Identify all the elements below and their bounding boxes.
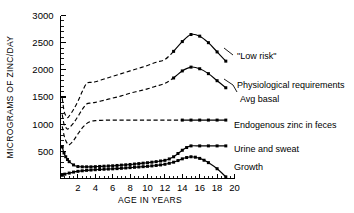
data-point <box>181 149 184 152</box>
y-axis-tick-labels: 50010001500200025003000 <box>32 10 53 157</box>
data-point <box>76 170 79 173</box>
data-point <box>142 162 145 165</box>
x-tick-label: 18 <box>212 182 223 193</box>
axes-group <box>61 16 235 179</box>
data-point <box>155 160 158 163</box>
data-point <box>120 167 123 170</box>
data-point <box>133 163 136 166</box>
series-label-low-risk: "Low risk" <box>237 51 276 61</box>
data-point <box>181 119 184 122</box>
data-point <box>194 156 197 159</box>
x-tick-label: 12 <box>160 182 171 193</box>
data-point <box>129 166 132 169</box>
data-point <box>129 163 132 166</box>
x-axis-title: AGE IN YEARS <box>118 195 182 205</box>
data-point <box>190 155 193 158</box>
data-point <box>207 119 210 122</box>
x-axis-tick-labels: 2468101214161820 <box>75 182 240 193</box>
data-point <box>137 165 140 168</box>
series-label-growth: Growth <box>234 162 263 172</box>
data-point <box>116 164 119 167</box>
series-line-dashed <box>62 51 173 117</box>
y-tick-label: 2000 <box>32 64 53 75</box>
x-tick-label: 20 <box>229 182 240 193</box>
x-tick-label: 16 <box>194 182 205 193</box>
data-point <box>150 164 153 167</box>
series-label-avg-basal: Avg basal <box>240 94 279 104</box>
data-point <box>163 163 166 166</box>
data-point <box>224 60 227 63</box>
data-point <box>181 69 184 72</box>
data-point <box>198 157 201 160</box>
series-endogenous-zinc-in-feces <box>62 119 227 145</box>
data-point <box>63 173 66 176</box>
data-point <box>190 66 193 69</box>
data-point <box>172 50 175 53</box>
data-point <box>111 167 114 170</box>
series-label-endogenous-zinc: Endogenous zinc in feces <box>234 120 337 130</box>
y-tick-label: 2500 <box>32 37 53 48</box>
data-point <box>76 165 79 168</box>
data-point <box>103 165 106 168</box>
series-layer <box>61 33 228 178</box>
data-point <box>216 144 219 147</box>
data-point <box>224 86 227 89</box>
data-point <box>107 168 110 171</box>
data-point <box>85 169 88 172</box>
data-point <box>146 165 149 168</box>
x-axis-ticks <box>61 174 235 179</box>
leader-low-risk <box>224 48 233 55</box>
series-label-urine-and-sweat: Urine and sweat <box>234 144 300 154</box>
data-point <box>172 155 175 158</box>
data-point <box>216 79 219 82</box>
data-point <box>159 163 162 166</box>
data-point <box>85 165 88 168</box>
data-point <box>207 161 210 164</box>
series-annotations: "Low risk" Physiological requirements Av… <box>234 51 345 172</box>
data-point <box>89 169 92 172</box>
data-point <box>142 165 145 168</box>
data-point <box>72 171 75 174</box>
data-point <box>216 167 219 170</box>
series-low-risk <box>62 33 227 118</box>
y-tick-label: 1000 <box>32 119 53 130</box>
data-point <box>172 161 175 164</box>
data-point <box>116 167 119 170</box>
data-point <box>72 163 75 166</box>
x-tick-label: 14 <box>177 182 188 193</box>
data-point <box>168 157 171 160</box>
data-point <box>198 119 201 122</box>
data-point <box>181 157 184 160</box>
series-line-dashed <box>62 120 182 145</box>
x-tick-label: 2 <box>75 182 80 193</box>
data-point <box>98 165 101 168</box>
data-point <box>176 159 179 162</box>
data-point <box>198 144 201 147</box>
data-point <box>61 145 64 148</box>
data-point <box>111 164 114 167</box>
y-tick-label: 1500 <box>32 91 53 102</box>
zinc-requirements-chart: 50010001500200025003000 2468101214161820… <box>0 0 354 213</box>
data-point <box>203 159 206 162</box>
data-point <box>124 163 127 166</box>
data-point <box>176 152 179 155</box>
data-point <box>107 165 110 168</box>
x-tick-label: 8 <box>127 182 132 193</box>
data-point <box>61 174 64 177</box>
data-point <box>207 72 210 75</box>
data-point <box>207 144 210 147</box>
data-point <box>190 119 193 122</box>
data-point <box>216 50 219 53</box>
series-urine-and-sweat <box>61 144 228 168</box>
x-tick-label: 10 <box>142 182 153 193</box>
data-point <box>207 41 210 44</box>
data-point <box>89 165 92 168</box>
leader-physiological <box>224 79 233 85</box>
data-point <box>163 159 166 162</box>
data-point <box>120 164 123 167</box>
data-point <box>224 119 227 122</box>
data-point <box>168 162 171 165</box>
data-point <box>103 168 106 171</box>
data-point <box>190 33 193 36</box>
data-point <box>185 156 188 159</box>
